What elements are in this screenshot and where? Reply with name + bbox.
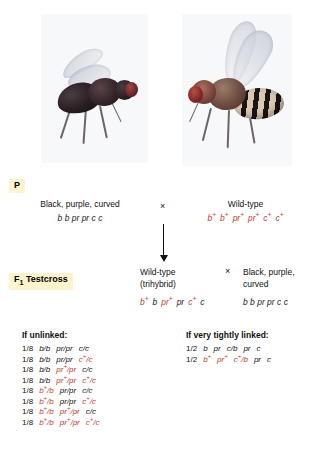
allele-plus-superscript: + bbox=[224, 353, 228, 359]
allele-token: c bbox=[200, 297, 204, 307]
allele-plus-superscript: + bbox=[169, 295, 173, 302]
allele-token: c bbox=[257, 344, 261, 355]
allele-plus-superscript: + bbox=[192, 295, 196, 302]
f1-testcross-chip: F1 Testcross bbox=[9, 268, 73, 290]
f1-parent-left-genotype: b+bpr+prc+c bbox=[140, 296, 222, 308]
allele-token: c+/c bbox=[82, 397, 96, 408]
allele-token: pr+/pr bbox=[60, 418, 80, 429]
progeny-fraction: 1/8 bbox=[22, 397, 33, 408]
allele-token: c bbox=[267, 355, 271, 366]
progeny-row: 1/2b+pr+c+/bprc bbox=[186, 355, 271, 366]
allele-token: b+ bbox=[208, 213, 217, 223]
progeny-fraction: 1/2 bbox=[186, 355, 197, 366]
allele-plus-superscript: + bbox=[212, 211, 216, 218]
allele-plus-superscript: + bbox=[44, 395, 48, 401]
allele-token: c+ bbox=[188, 297, 196, 307]
mutant-fly-leg bbox=[60, 110, 71, 139]
allele-token: c+ bbox=[263, 213, 271, 223]
progeny-fraction: 1/8 bbox=[22, 407, 33, 418]
linked-row-container: 1/2bprc/bprc1/2b+pr+c+/bprc bbox=[186, 344, 271, 365]
unlinked-outcomes: If unlinked: 1/8b/bpr/prc/c1/8b/bpr/prc+… bbox=[22, 330, 100, 428]
cross-arrow-head bbox=[160, 255, 168, 262]
progeny-fraction: 1/8 bbox=[22, 418, 33, 429]
p-parent-left: Black, purple, curved b b pr pr c c bbox=[10, 198, 150, 224]
progeny-row: 1/8b/bpr/prc/c bbox=[22, 344, 100, 355]
allele-token: c+/c bbox=[82, 376, 96, 387]
allele-token: pr+ bbox=[233, 213, 244, 223]
mutant-fly-leg bbox=[111, 102, 122, 122]
allele-token: pr bbox=[254, 355, 261, 366]
allele-plus-superscript: + bbox=[280, 211, 284, 218]
mutant-fly-leg bbox=[82, 108, 86, 144]
top-crop-artifact bbox=[0, 0, 315, 8]
allele-token: c+/c bbox=[79, 355, 93, 366]
f1-parent-right: Black, purple, curved b b pr pr c c bbox=[243, 266, 315, 308]
progeny-fraction: 1/8 bbox=[22, 376, 33, 387]
f1-parent-right-genotype: b b pr pr c c bbox=[243, 296, 315, 308]
progeny-row: 1/8b/bpr/prc+/c bbox=[22, 355, 100, 366]
fly-photographs bbox=[0, 14, 315, 166]
wild-type-fly-photo bbox=[182, 14, 292, 166]
f1-parent-left-phenotype-line2: (trihybrid) bbox=[140, 278, 222, 290]
allele-token: b/b bbox=[39, 365, 50, 376]
wild-type-fly-leg bbox=[189, 102, 199, 123]
allele-plus-superscript: + bbox=[63, 374, 67, 380]
allele-plus-superscript: + bbox=[268, 211, 272, 218]
allele-plus-superscript: + bbox=[145, 295, 149, 302]
black-purple-curved-fly-photo bbox=[41, 14, 148, 163]
allele-plus-superscript: + bbox=[90, 416, 94, 422]
allele-token: b+ bbox=[140, 297, 149, 307]
allele-token: b+ bbox=[203, 355, 211, 366]
unlinked-row-container: 1/8b/bpr/prc/c1/8b/bpr/prc+/c1/8b/bpr+/p… bbox=[22, 344, 100, 428]
p-parent-right-genotype: b+b+pr+pr+c+c+ bbox=[178, 212, 313, 224]
allele-plus-superscript: + bbox=[63, 363, 67, 369]
progeny-row: 1/8b/bpr+/prc+/c bbox=[22, 376, 100, 387]
progeny-fraction: 1/8 bbox=[22, 386, 33, 397]
wild-type-fly-leg bbox=[227, 110, 230, 148]
allele-plus-superscript: + bbox=[44, 405, 48, 411]
allele-token: pr+ bbox=[248, 213, 259, 223]
allele-token: pr+/pr bbox=[56, 376, 76, 387]
allele-plus-superscript: + bbox=[44, 384, 48, 390]
f1-cross-symbol: × bbox=[225, 266, 230, 276]
progeny-fraction: 1/2 bbox=[186, 344, 197, 355]
f1-parent-right-phenotype-line1: Black, purple, bbox=[243, 266, 315, 278]
allele-plus-superscript: + bbox=[67, 405, 71, 411]
allele-plus-superscript: + bbox=[44, 416, 48, 422]
p-parent-left-phenotype: Black, purple, curved bbox=[10, 198, 150, 210]
allele-token: c+ bbox=[275, 213, 283, 223]
p-parent-right-phenotype: Wild-type bbox=[178, 198, 313, 210]
wild-type-fly-leg bbox=[202, 108, 212, 141]
allele-token: c+/b bbox=[234, 355, 248, 366]
wild-type-fly-eye bbox=[188, 86, 203, 103]
allele-token: b+ bbox=[220, 213, 229, 223]
mutant-fly-eye bbox=[125, 82, 138, 97]
progeny-row: 1/8b+/bpr+/prc+/c bbox=[22, 418, 100, 429]
allele-token: pr bbox=[177, 297, 185, 307]
progeny-fraction: 1/8 bbox=[22, 365, 33, 376]
allele-token: pr bbox=[214, 344, 221, 355]
allele-plus-superscript: + bbox=[67, 416, 71, 422]
allele-token: pr+ bbox=[161, 297, 172, 307]
linked-outcomes: If very tightly linked: 1/2bprc/bprc1/2b… bbox=[186, 330, 271, 365]
unlinked-heading: If unlinked: bbox=[22, 330, 100, 340]
linked-heading: If very tightly linked: bbox=[186, 330, 271, 340]
allele-token: pr bbox=[243, 344, 250, 355]
allele-plus-superscript: + bbox=[240, 211, 244, 218]
mutant-fly-leg bbox=[99, 106, 107, 139]
allele-token: b/b bbox=[39, 344, 50, 355]
p-generation-row: P Black, purple, curved b b pr pr c c × … bbox=[0, 174, 315, 234]
allele-token: c/b bbox=[227, 344, 238, 355]
allele-token: c+/c bbox=[86, 418, 100, 429]
progeny-outcome-lists: If unlinked: 1/8b/bpr/prc/c1/8b/bpr/prc+… bbox=[0, 330, 315, 454]
f1-testcross-row: F1 Testcross Wild-type (trihybrid) b+bpr… bbox=[0, 266, 315, 322]
progeny-fraction: 1/8 bbox=[22, 355, 33, 366]
p-parent-left-genotype: b b pr pr c c bbox=[10, 212, 150, 224]
progeny-row: 1/2bprc/bprc bbox=[186, 344, 271, 355]
f1-parent-left-phenotype-line1: Wild-type bbox=[140, 266, 222, 278]
allele-token: b/b bbox=[39, 355, 50, 366]
allele-plus-superscript: + bbox=[238, 353, 242, 359]
allele-token: b+/b bbox=[39, 418, 54, 429]
progeny-row: 1/8b+/bpr+/prc/c bbox=[22, 407, 100, 418]
f1-parent-left: Wild-type (trihybrid) b+bpr+prc+c bbox=[140, 266, 222, 308]
